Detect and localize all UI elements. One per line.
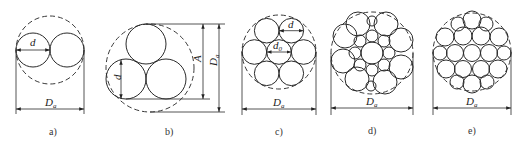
strand xyxy=(291,40,316,65)
strand xyxy=(367,16,377,26)
strand xyxy=(242,40,267,65)
strand xyxy=(378,35,390,47)
strand xyxy=(480,75,494,89)
d-label: d xyxy=(111,74,123,80)
strand xyxy=(126,24,166,64)
strand xyxy=(254,61,279,86)
Da-label: Da xyxy=(465,95,478,109)
strand xyxy=(464,45,481,62)
strand xyxy=(146,59,186,99)
strand xyxy=(378,59,390,71)
Da-label: Da xyxy=(207,54,221,67)
strand xyxy=(50,33,84,67)
strand xyxy=(389,28,413,52)
panel-d: Da d) xyxy=(331,12,413,137)
Da-label: Da xyxy=(44,96,57,110)
Da-label: Da xyxy=(365,95,378,109)
strand xyxy=(333,24,357,48)
panel-c: d d0 Da c) xyxy=(242,15,316,138)
strand xyxy=(373,70,397,94)
strand xyxy=(481,45,498,62)
strand xyxy=(437,60,455,78)
strand xyxy=(463,11,481,29)
caption-d: d) xyxy=(368,125,376,137)
panel-a: d Da a) xyxy=(16,16,84,138)
Da-label: Da xyxy=(272,96,285,110)
strand xyxy=(463,75,481,93)
strand xyxy=(436,28,454,46)
strand xyxy=(454,27,472,45)
stranded-conductor-diagram: d Da a) d A Da b) d d0 xyxy=(0,0,522,145)
strand xyxy=(374,12,398,36)
panel-b: d A Da b) xyxy=(106,24,225,138)
strand xyxy=(450,75,464,89)
circumscribed-circle xyxy=(433,13,511,91)
caption-b: b) xyxy=(165,126,173,138)
inner-ring xyxy=(349,30,395,76)
strand xyxy=(366,30,378,42)
strand xyxy=(433,46,447,60)
strand xyxy=(366,81,376,91)
caption-a: a) xyxy=(49,126,57,138)
strand xyxy=(349,47,361,59)
strand xyxy=(346,12,370,36)
d-label: d xyxy=(30,36,36,48)
caption-c: c) xyxy=(275,126,283,138)
strand xyxy=(331,49,355,73)
strand xyxy=(490,28,508,46)
strand xyxy=(389,55,413,79)
strand xyxy=(447,45,464,62)
strand xyxy=(497,46,511,60)
panel-e: Da e) xyxy=(433,11,511,137)
d0-label: d0 xyxy=(273,39,283,53)
A-label: A xyxy=(191,55,203,63)
strand xyxy=(489,60,507,78)
strand xyxy=(472,27,490,45)
strand xyxy=(279,61,304,86)
caption-e: e) xyxy=(468,125,476,137)
d-label: d xyxy=(288,18,294,30)
